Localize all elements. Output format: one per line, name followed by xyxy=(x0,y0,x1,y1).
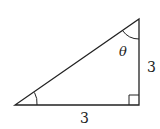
vertical-side-label: 3 xyxy=(147,59,156,75)
theta-angle-arc xyxy=(123,31,140,40)
left-angle-arc xyxy=(35,93,38,106)
theta-label: θ xyxy=(119,44,127,59)
triangle-diagram: θ 3 3 xyxy=(0,0,160,129)
horizontal-side-label: 3 xyxy=(80,110,89,126)
right-triangle xyxy=(15,19,139,105)
right-angle-marker xyxy=(129,95,139,105)
